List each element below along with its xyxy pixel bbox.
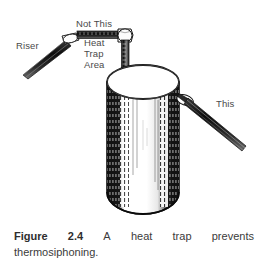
label-this: This [216,98,234,109]
caption-word-0: A [103,229,110,245]
caption-figure-word: Figure [14,229,48,245]
label-heat-trap-area: Heat Trap Area [84,37,104,70]
water-heater-tank [107,65,180,214]
outlet-pipe [184,98,246,151]
figure-caption-line-1: Figure 2.4 A heat trap prevents [14,229,254,245]
caption-figure-number: 2.4 [68,229,83,245]
label-not-this: Not This [76,18,112,29]
caption-word-1: heat [131,229,152,245]
caption-word-2: trap [173,229,192,245]
label-heat-trap-line-1: Heat [84,37,104,48]
figure-caption: Figure 2.4 A heat trap prevents thermosi… [14,229,254,260]
heat-trap-diagram [0,0,266,228]
label-heat-trap-line-3: Area [84,59,104,70]
label-riser: Riser [16,40,39,51]
riser-coupling [62,33,79,45]
figure-page: Riser Not This This Heat Trap Area Figur… [0,0,266,265]
figure-caption-line-2: thermosiphoning. [14,245,254,261]
label-heat-trap-line-2: Trap [84,48,104,59]
caption-word-3: prevents [212,229,254,245]
